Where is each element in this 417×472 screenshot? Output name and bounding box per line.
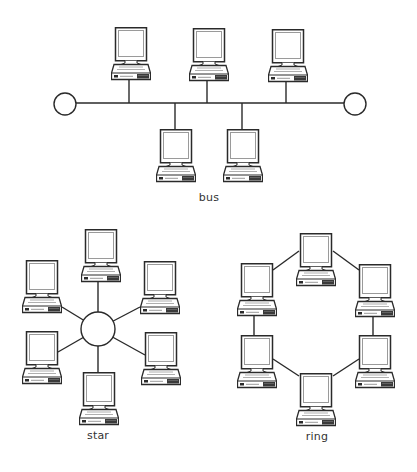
computer-icon <box>142 333 181 385</box>
computer-icon <box>297 374 336 426</box>
bus-label: bus <box>199 191 219 204</box>
ring-link-line <box>273 359 299 376</box>
computer-icon <box>356 265 395 317</box>
computer-icon <box>80 373 119 425</box>
computer-icon <box>157 130 196 182</box>
computer-icon <box>23 332 62 384</box>
computer-icon <box>23 261 62 313</box>
ring-link-line <box>273 251 299 270</box>
terminator-circle <box>344 93 366 115</box>
computer-icon <box>112 28 151 80</box>
computer-icon <box>238 336 277 388</box>
hub-circle <box>81 312 115 346</box>
network-topology-diagram <box>0 0 417 472</box>
computer-icon <box>190 29 229 81</box>
star-label: star <box>87 429 109 442</box>
ring-topology <box>238 234 395 426</box>
star-topology <box>23 230 181 425</box>
terminator-circle <box>54 93 76 115</box>
computer-icon <box>297 234 336 286</box>
ring-link-line <box>333 359 359 376</box>
computer-icon <box>141 262 180 314</box>
computer-icon <box>356 336 395 388</box>
computer-icon <box>82 230 121 282</box>
ring-link-line <box>333 251 359 270</box>
bus-topology <box>54 28 366 182</box>
computer-icon <box>269 30 308 82</box>
computer-icon <box>238 264 277 316</box>
ring-label: ring <box>306 430 328 443</box>
computer-icon <box>224 130 263 182</box>
